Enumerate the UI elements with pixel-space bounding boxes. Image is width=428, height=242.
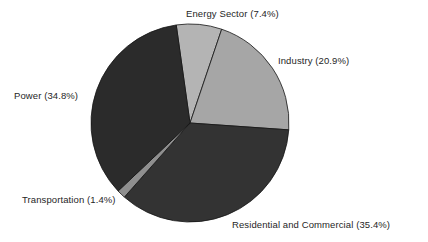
pie-label-residential-and-commercial: Residential and Commercial (35.4%)	[232, 219, 390, 230]
pie-slice-group	[91, 24, 289, 222]
pie-label-power: Power (34.8%)	[14, 90, 78, 101]
pie-chart-figure: Energy Sector (7.4%) Industry (20.9%) Re…	[0, 0, 428, 242]
pie-label-energy-sector: Energy Sector (7.4%)	[186, 8, 279, 19]
pie-label-transportation: Transportation (1.4%)	[22, 194, 116, 205]
pie-label-industry: Industry (20.9%)	[278, 55, 349, 66]
pie-chart-canvas	[0, 0, 428, 242]
